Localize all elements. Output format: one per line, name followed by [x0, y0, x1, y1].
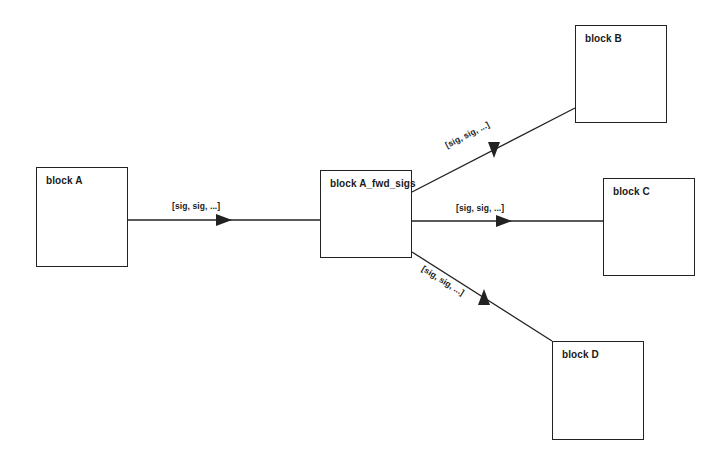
edge-arrowhead — [488, 142, 500, 158]
block-block-a[interactable]: block A — [36, 167, 128, 267]
edge-arrowhead — [478, 289, 490, 305]
block-label: block C — [613, 186, 650, 197]
edge-label-edge-fwd-to-c: [sig, sig, ...] — [456, 203, 504, 213]
block-block-b[interactable]: block B — [575, 25, 667, 123]
block-block-c[interactable]: block C — [603, 178, 695, 276]
edge-label-edge-a-to-fwd: [sig, sig, ...] — [172, 201, 220, 211]
edge-arrowhead — [216, 214, 232, 226]
block-label: block A_fwd_sigs — [330, 178, 416, 189]
block-label: block A — [46, 175, 82, 186]
edge-arrowhead — [496, 215, 512, 227]
block-block-d[interactable]: block D — [552, 341, 644, 440]
block-block-a-fwd-sigs[interactable]: block A_fwd_sigs — [320, 170, 412, 258]
diagram-canvas: block Ablock A_fwd_sigsblock Bblock Cblo… — [0, 0, 726, 462]
block-label: block D — [562, 349, 599, 360]
block-label: block B — [585, 33, 622, 44]
